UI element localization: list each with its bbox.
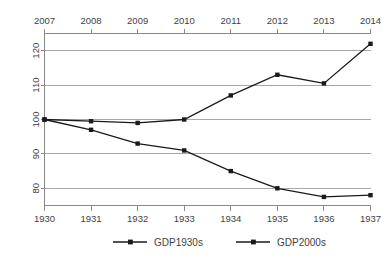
bottom-axis-tick-label: 1932 — [127, 213, 148, 224]
bottom-axis-tick-label: 1936 — [313, 213, 334, 224]
top-axis-tick-label: 2010 — [174, 15, 195, 26]
legend-label: GDP2000s — [277, 237, 326, 248]
chart-container: 20072008200920102011201220132014 1201101… — [0, 0, 391, 259]
data-point — [275, 186, 279, 190]
data-point — [89, 119, 93, 123]
top-axis-tick-label: 2009 — [127, 15, 148, 26]
data-point — [42, 117, 46, 121]
bottom-axis-tick-label: 1934 — [220, 213, 241, 224]
top-axis-tick-label: 2012 — [267, 15, 288, 26]
line-chart: 20072008200920102011201220132014 1201101… — [0, 0, 391, 259]
legend-swatch-marker — [251, 240, 256, 245]
bottom-axis-tick-label: 1933 — [174, 213, 195, 224]
top-axis-tick-label: 2014 — [360, 15, 381, 26]
bottom-axis-tick-label: 1937 — [360, 213, 381, 224]
data-point — [322, 195, 326, 199]
data-point — [135, 121, 139, 125]
data-point — [368, 42, 372, 46]
data-point — [275, 73, 279, 77]
data-point — [322, 81, 326, 85]
top-axis-tick-label: 2008 — [81, 15, 102, 26]
top-axis-tick-label: 2011 — [221, 15, 241, 26]
y-axis-tick-label: 100 — [30, 112, 41, 128]
bottom-axis-tick-label: 1935 — [267, 213, 288, 224]
y-axis-tick-label: 110 — [30, 78, 41, 93]
data-point — [229, 169, 233, 173]
top-axis-tick-label: 2013 — [313, 15, 334, 26]
y-axis-tick-label: 90 — [30, 149, 41, 160]
data-point — [135, 141, 139, 145]
data-point — [89, 128, 93, 132]
y-axis-tick-label: 80 — [30, 183, 41, 194]
bottom-axis-tick-label: 1931 — [81, 213, 102, 224]
data-point — [182, 117, 186, 121]
legend-label: GDP1930s — [154, 237, 203, 248]
bottom-axis-tick-label: 1930 — [34, 213, 55, 224]
top-axis-tick-label: 2007 — [34, 15, 55, 26]
legend-swatch-marker — [128, 240, 133, 245]
data-point — [229, 93, 233, 97]
data-point — [182, 148, 186, 152]
data-point — [368, 193, 372, 197]
y-axis-tick-label: 120 — [30, 43, 41, 59]
